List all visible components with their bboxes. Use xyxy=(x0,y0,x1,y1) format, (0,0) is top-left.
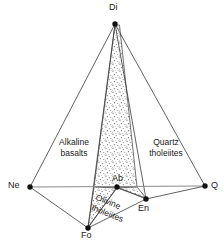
vertex-point-en xyxy=(143,196,148,201)
vertex-label-q: Q xyxy=(211,181,218,190)
field-line-1: Quartz xyxy=(153,137,179,147)
vertex-point-q xyxy=(202,183,207,188)
field-label-alkaline-basalts: Alkaline basalts xyxy=(48,137,100,159)
vertex-point-di xyxy=(112,21,117,26)
vertex-label-ne: Ne xyxy=(8,181,20,190)
vertex-point-ne xyxy=(27,184,32,189)
edge-en-q xyxy=(146,186,205,199)
vertex-label-fo: Fo xyxy=(81,231,92,240)
vertex-label-ab: Ab xyxy=(112,174,123,183)
edge-ne-fo xyxy=(30,187,88,228)
vertex-point-ab xyxy=(114,184,119,189)
field-line-2: basalts xyxy=(61,148,88,158)
basalt-tetrahedron-figure: Di Ne Q Fo En Ab Alkaline basalts Quartz… xyxy=(0,0,224,248)
field-line-1: Alkaline xyxy=(59,137,89,147)
vertex-label-di: Di xyxy=(109,3,118,12)
field-line-2: tholeiites xyxy=(149,148,183,158)
stippled-plane-di-ab xyxy=(94,25,137,187)
field-label-quartz-tholeiites: Quartz tholeiites xyxy=(139,137,193,159)
